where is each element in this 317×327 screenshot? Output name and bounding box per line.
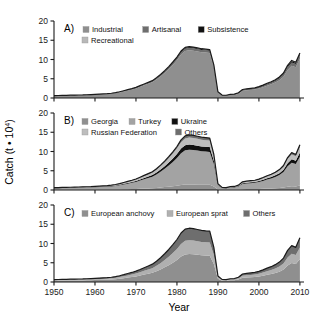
legend-swatch-turkey [129,119,135,125]
y-axis-title-text: Catch (t • 104) [3,119,15,184]
x-tick-label: 1990 [208,287,227,297]
y-tick-label: 0 [43,93,48,103]
legend-label-industrial: Industrial [92,25,123,34]
y-tick-label: 20 [39,200,49,210]
panel-label-c: C) [64,207,75,218]
legend-label-others: Others [184,128,207,137]
y-tick-label: 15 [39,35,49,45]
x-tick-label: 2010 [290,287,309,297]
y-tick-label: 5 [43,166,48,176]
x-tick-label: 2000 [249,287,268,297]
legend-label-turkey: Turkey [138,117,161,126]
legend-swatch-others [244,211,250,217]
legend-swatch-georgia [82,119,88,125]
legend-label-russian-federation: Russian Federation [91,128,157,137]
x-tick-label: 1980 [167,287,186,297]
stacked-area-chart: 05101520A)IndustrialArtisanalSubsistence… [0,0,317,327]
legend-swatch-recreational [82,37,88,43]
panel-a: 05101520A)IndustrialArtisanalSubsistence… [39,16,304,103]
x-tick-label: 1950 [45,287,64,297]
y-tick-label: 15 [39,219,49,229]
y-tick-label: 0 [43,185,48,195]
legend-label-georgia: Georgia [91,117,119,126]
y-tick-label: 10 [39,239,49,249]
legend-label-artisanal: Artisanal [152,25,182,34]
panel-label-b: B) [64,115,74,126]
panel-c: 051015201950196019701980199020002010C)Eu… [39,200,310,297]
y-tick-label: 20 [39,108,49,118]
panel-label-a: A) [64,23,74,34]
y-tick-label: 10 [39,147,49,157]
x-tick-label: 1960 [86,287,105,297]
panel-b: 05101520B)GeorgiaTurkeyUkraineRussian Fe… [39,108,304,195]
x-tick-label: 1970 [127,287,146,297]
legend-swatch-industrial [83,27,89,33]
figure-container: 05101520A)IndustrialArtisanalSubsistence… [0,0,317,327]
legend-swatch-european-sprat [167,211,173,217]
legend-swatch-russian-federation [82,129,88,135]
legend-swatch-artisanal [143,27,149,33]
y-tick-label: 10 [39,55,49,65]
legend-swatch-european-anchovy [82,211,88,217]
legend-label-ukraine: Ukraine [181,117,207,126]
legend-label-european-sprat: European sprat [176,209,229,218]
y-tick-label: 5 [43,74,48,84]
legend-label-others: Others [253,209,276,218]
x-axis-title: Year [168,301,190,313]
legend-swatch-subsistence [198,27,204,33]
legend-swatch-others [175,129,181,135]
y-tick-label: 0 [43,277,48,287]
legend-label-european-anchovy: European anchovy [91,209,155,218]
y-axis-title: Catch (t • 104) [3,119,15,184]
legend-swatch-ukraine [172,119,178,125]
y-tick-label: 5 [43,258,48,268]
y-tick-label: 20 [39,16,49,26]
y-tick-label: 15 [39,127,49,137]
legend-label-recreational: Recreational [91,36,134,45]
legend-label-subsistence: Subsistence [207,25,248,34]
